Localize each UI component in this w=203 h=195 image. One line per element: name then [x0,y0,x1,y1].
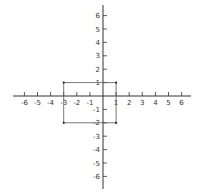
y-tick-label: -4 [93,146,101,154]
y-tick-label: 4 [96,39,101,47]
x-tick-label: 6 [179,99,184,107]
vertex-dot [115,122,117,124]
y-tick-label: 6 [96,12,101,20]
x-tick-label: -2 [73,99,80,107]
y-tick-label: -3 [93,133,100,141]
x-tick-label: 4 [153,99,158,107]
coordinate-plane: -6-5-4-3-2-1123456 654321-1-2-3-4-5-6 [0,0,203,195]
vertex-dot [115,82,117,84]
vertex-dot [63,82,65,84]
y-tick-label: 3 [96,52,100,60]
x-tick-label: -6 [21,99,29,107]
y-tick-label: -2 [93,119,100,127]
vertex-dot [63,122,65,124]
x-tick-label: -4 [47,99,55,107]
x-tick-label: -5 [34,99,41,107]
y-tick-label: -1 [93,106,100,114]
x-tick-label: 5 [166,99,170,107]
y-tick-label: 5 [96,26,100,34]
x-tick-label: 2 [127,99,131,107]
y-tick-label: 2 [96,66,100,74]
x-tick-label: 3 [140,99,144,107]
y-tick-label: -5 [93,160,100,168]
y-tick-label: -6 [93,173,101,181]
y-tick-label: 1 [96,79,100,87]
axes [13,5,191,189]
